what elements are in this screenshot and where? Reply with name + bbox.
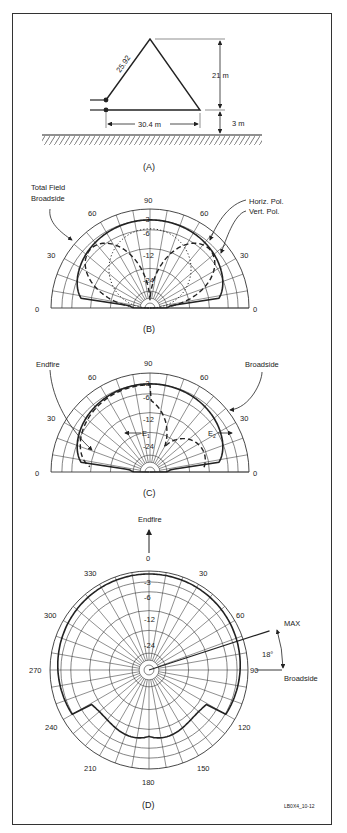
axis-label: 60: [236, 611, 244, 620]
axis-label: 0: [35, 469, 39, 478]
angle-arc: [277, 630, 283, 668]
base-length-label: 30.4 m: [138, 120, 161, 129]
panel-b-elevation-pattern: 030609060300-3-6-12-24: [35, 196, 257, 314]
e1-label: E1: [142, 429, 150, 439]
axis-label: 30: [240, 414, 248, 423]
feed-point-icon: [104, 108, 109, 113]
axis-label: 90: [144, 359, 152, 368]
max-label: MAX: [284, 619, 300, 628]
db-label: -6: [143, 229, 150, 238]
axis-label: 60: [88, 209, 96, 218]
panel-a-antenna-geometry: 25.92 21 m 3 m 30.4 m (A): [42, 39, 262, 172]
axis-label: 60: [200, 209, 208, 218]
axis-label: 180: [142, 778, 155, 787]
panel-c-caption: (C): [143, 488, 156, 498]
axis-label: 300: [44, 611, 57, 620]
legend-vert-pol: Vert. Pol.: [249, 207, 279, 216]
figure-canvas: 25.92 21 m 3 m 30.4 m (A) 030609060300-3…: [0, 0, 347, 833]
axis-label: 30: [240, 251, 248, 260]
panel-b-caption: (B): [143, 324, 155, 334]
legend-broadside: Broadside: [245, 360, 279, 369]
db-label: -12: [143, 251, 154, 260]
broadside-label: Broadside: [284, 674, 318, 683]
axis-label: 30: [47, 251, 55, 260]
axis-label: 60: [88, 373, 96, 382]
height-label: 21 m: [212, 71, 229, 80]
axis-label: 30: [199, 569, 207, 578]
db-label: -3: [144, 578, 151, 587]
db-label: -24: [143, 276, 154, 285]
db-label: -6: [144, 593, 151, 602]
panel-d-caption: (D): [142, 800, 155, 810]
legend-total-field: Total Field: [31, 183, 65, 192]
axis-label: 30: [47, 414, 55, 423]
db-label: -6: [143, 393, 150, 402]
side-length-label: 25.92: [114, 54, 132, 75]
e2-label: E2: [208, 429, 216, 439]
db-label: -24: [144, 641, 155, 650]
max-angle-label: 18°: [262, 650, 273, 659]
ground-height-label: 3 m: [232, 119, 245, 128]
db-label: -24: [143, 442, 154, 451]
panel-a-caption: (A): [143, 162, 155, 172]
ground-hatch: [42, 136, 262, 145]
legend-endfire: Endfire: [36, 360, 60, 369]
axis-label: 270: [29, 666, 42, 675]
axis-label: 0: [35, 305, 39, 314]
axis-label: 60: [200, 373, 208, 382]
axis-label: 330: [84, 569, 97, 578]
figure-id: LB0X4_10-12: [284, 803, 315, 809]
axis-label: 90: [250, 666, 258, 675]
axis-label: 150: [197, 764, 210, 773]
endfire-label: Endfire: [138, 515, 162, 524]
legend-broadside: Broadside: [31, 194, 65, 203]
delta-loop-antenna: [106, 39, 200, 110]
feed-point-icon: [104, 98, 109, 103]
db-label: -12: [144, 615, 155, 624]
axis-label: 90: [144, 196, 152, 205]
panel-d-azimuth-pattern: 0306090120150180210240270300330-3-6-12-2…: [29, 554, 283, 787]
db-label: -12: [143, 415, 154, 424]
db-label: -3: [143, 215, 150, 224]
max-direction-line: [149, 631, 270, 670]
legend-horiz-pol: Horiz. Pol.: [249, 197, 284, 206]
axis-label: 0: [253, 305, 257, 314]
panel-c-elevation-pattern: 030609060300-3-6-12-24: [35, 359, 262, 478]
axis-label: 210: [84, 764, 97, 773]
axis-label: 0: [253, 469, 257, 478]
axis-label: 120: [238, 723, 251, 732]
db-label: -3: [143, 379, 150, 388]
axis-label: 240: [45, 723, 58, 732]
axis-label: 0: [146, 554, 150, 563]
